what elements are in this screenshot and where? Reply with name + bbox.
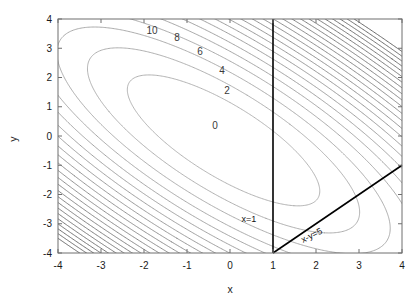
x-tick-label: 2	[313, 260, 319, 271]
contour-plot-svg: -4-3-2-101234 -4-3-2-101234 0246810 x=1x…	[0, 0, 416, 302]
contour-label-10: 10	[146, 25, 158, 36]
y-axis-title: y	[7, 136, 19, 142]
x-axis-title: x	[227, 283, 233, 295]
contour-plot-figure: -4-3-2-101234 -4-3-2-101234 0246810 x=1x…	[0, 0, 416, 302]
x-tick-label: 0	[227, 260, 233, 271]
x-tick-label: 4	[399, 260, 405, 271]
x-tick-label: -3	[97, 260, 106, 271]
contour-label-6: 6	[197, 46, 203, 57]
y-tick-label: 4	[46, 14, 52, 25]
contour-label-4: 4	[219, 65, 225, 76]
x-tick-label: -4	[54, 260, 63, 271]
y-tick-label: 0	[46, 131, 52, 142]
y-tick-label: -4	[43, 248, 52, 259]
y-tick-label: -1	[43, 160, 52, 171]
y-tick-label: 2	[46, 72, 52, 83]
y-tick-label: 3	[46, 43, 52, 54]
x-tick-label: -2	[140, 260, 149, 271]
x-tick-label: 1	[270, 260, 276, 271]
y-tick-label: 1	[46, 101, 52, 112]
contour-label-2: 2	[224, 85, 230, 96]
x-tick-label: 3	[356, 260, 362, 271]
contour-label-0: 0	[212, 120, 218, 131]
x-tick-label: -1	[183, 260, 192, 271]
figure-background	[0, 0, 416, 302]
contour-label-8: 8	[174, 32, 180, 43]
constraint-label-x-1: x=1	[242, 214, 257, 224]
y-tick-label: -2	[43, 189, 52, 200]
y-tick-label: -3	[43, 218, 52, 229]
